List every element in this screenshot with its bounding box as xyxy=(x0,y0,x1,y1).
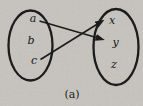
left-element-label-c: c xyxy=(31,54,37,67)
set-mapping-figure: a b c x y z (a) xyxy=(0,0,143,106)
right-element-label-y: y xyxy=(111,36,119,49)
left-element-label-a: a xyxy=(30,12,37,25)
diagram-canvas: a b c x y z (a) xyxy=(0,0,143,106)
left-element-label-b: b xyxy=(27,34,34,47)
right-element-label-x: x xyxy=(109,14,116,27)
figure-caption: (a) xyxy=(64,88,79,101)
right-element-label-z: z xyxy=(110,58,117,71)
